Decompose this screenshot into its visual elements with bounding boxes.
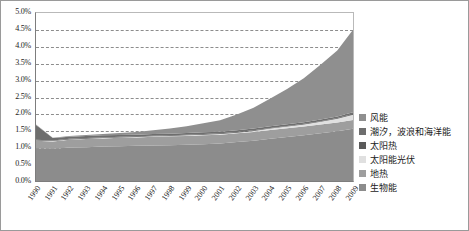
legend-item-label: 风能: [370, 113, 388, 123]
x-axis-tick-label: 1997: [143, 184, 160, 202]
y-axis-tick-label: 4.0%: [15, 42, 31, 50]
legend-item-label: 潮汐，波浪和海洋能: [370, 127, 451, 137]
legend-item-label: 地热: [370, 169, 388, 179]
x-axis-tick-label: 2007: [310, 184, 327, 202]
legend-item[interactable]: 风能: [359, 111, 467, 124]
x-axis-tick-label: 1999: [176, 184, 193, 202]
x-axis: 1990199119921993199419951996199719981999…: [35, 183, 355, 227]
x-axis-tick-label: 1990: [26, 184, 43, 202]
legend-swatch-icon: [359, 170, 366, 177]
legend-swatch-icon: [359, 184, 366, 191]
y-axis-tick-label: 4.5%: [15, 25, 31, 33]
y-axis-tick-label: 1.5%: [15, 126, 31, 134]
legend-item[interactable]: 潮汐，波浪和海洋能: [359, 125, 467, 138]
legend-item[interactable]: 太阳能光伏: [359, 153, 467, 166]
x-axis-tick-label: 2002: [227, 184, 244, 202]
legend-swatch-icon: [359, 114, 366, 121]
x-axis-tick-label: 1991: [43, 184, 60, 202]
x-axis-tick-label: 2001: [210, 184, 227, 202]
chart-legend: 风能潮汐，波浪和海洋能太阳热太阳能光伏地热生物能: [359, 111, 467, 195]
legend-swatch-icon: [359, 156, 366, 163]
legend-item[interactable]: 生物能: [359, 181, 467, 194]
x-axis-tick-label: 1993: [76, 184, 93, 202]
x-axis-tick-label: 2004: [260, 184, 277, 202]
legend-item[interactable]: 地热: [359, 167, 467, 180]
x-axis-tick-label: 2008: [327, 184, 344, 202]
legend-item-label: 太阳能光伏: [370, 155, 415, 165]
legend-swatch-icon: [359, 142, 366, 149]
legend-item-label: 太阳热: [370, 141, 397, 151]
x-axis-tick-label: 2003: [243, 184, 260, 202]
legend-item-label: 生物能: [370, 183, 397, 193]
x-axis-tick-label: 1996: [126, 184, 143, 202]
y-axis-tick-label: 3.0%: [15, 76, 31, 84]
x-axis-tick-label: 1995: [109, 184, 126, 202]
y-axis-tick-label: 1.0%: [15, 143, 31, 151]
stacked-area-chart: 0.0%0.5%1.0%1.5%2.0%2.5%3.0%3.5%4.0%4.5%…: [0, 0, 469, 231]
x-axis-tick-label: 1992: [59, 184, 76, 202]
y-axis-tick-label: 2.5%: [15, 93, 31, 101]
x-axis-tick-label: 2006: [294, 184, 311, 202]
area-series: [36, 29, 354, 139]
y-axis-tick-label: 5.0%: [15, 8, 31, 16]
y-axis-tick-label: 2.0%: [15, 109, 31, 117]
x-axis-tick-label: 2000: [193, 184, 210, 202]
area-series-group: [36, 13, 354, 182]
y-axis-tick-label: 0.5%: [15, 160, 31, 168]
y-axis-tick-label: 3.5%: [15, 59, 31, 67]
legend-swatch-icon: [359, 128, 366, 135]
y-axis-tick-label: 0.0%: [15, 177, 31, 185]
plot-area: [35, 12, 354, 182]
x-axis-tick-label: 2009: [344, 184, 361, 202]
x-axis-tick-label: 1994: [93, 184, 110, 202]
legend-item[interactable]: 太阳热: [359, 139, 467, 152]
y-axis: 0.0%0.5%1.0%1.5%2.0%2.5%3.0%3.5%4.0%4.5%…: [1, 1, 34, 183]
x-axis-tick-label: 2005: [277, 184, 294, 202]
x-axis-tick-label: 1998: [160, 184, 177, 202]
